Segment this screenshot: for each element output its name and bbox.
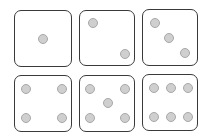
pip-icon bbox=[57, 113, 67, 123]
pip-icon bbox=[183, 112, 193, 122]
die-face-1: 1 bbox=[14, 10, 72, 67]
die-value-label: 5 bbox=[80, 76, 81, 77]
pip-icon bbox=[120, 84, 130, 94]
die-value-label: 6 bbox=[143, 75, 144, 76]
pip-icon bbox=[88, 18, 98, 28]
die-value-label: 2 bbox=[80, 11, 81, 12]
pip-icon bbox=[103, 98, 113, 108]
die-face-3: 3 bbox=[142, 9, 198, 66]
die-face-6: 6 bbox=[142, 74, 198, 131]
die-face-2: 2 bbox=[79, 10, 135, 66]
pip-icon bbox=[166, 112, 176, 122]
pip-icon bbox=[180, 48, 190, 58]
pip-icon bbox=[166, 83, 176, 93]
pip-icon bbox=[164, 33, 174, 43]
pip-icon bbox=[57, 84, 67, 94]
pip-icon bbox=[21, 84, 31, 94]
pip-icon bbox=[120, 113, 130, 123]
die-value-label: 3 bbox=[143, 10, 144, 11]
die-face-5: 5 bbox=[79, 75, 135, 132]
pip-icon bbox=[21, 113, 31, 123]
die-face-4: 4 bbox=[14, 75, 72, 132]
pip-icon bbox=[120, 49, 130, 59]
pip-icon bbox=[183, 83, 193, 93]
pip-icon bbox=[85, 113, 95, 123]
die-value-label: 4 bbox=[15, 76, 16, 77]
die-value-label: 1 bbox=[15, 11, 16, 12]
pip-icon bbox=[85, 84, 95, 94]
pip-icon bbox=[150, 18, 160, 28]
pip-icon bbox=[149, 83, 159, 93]
pip-icon bbox=[149, 112, 159, 122]
pip-icon bbox=[38, 34, 48, 44]
